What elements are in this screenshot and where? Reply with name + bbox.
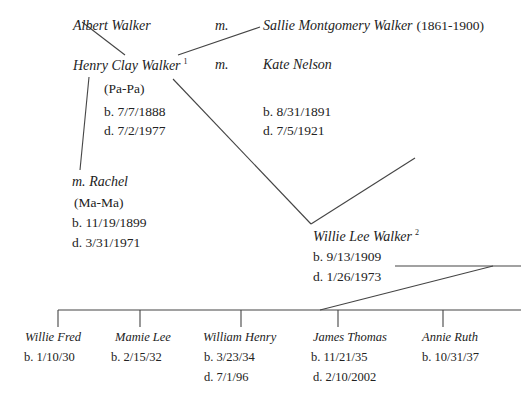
henry-died: d. 7/2/1977 bbox=[104, 124, 166, 138]
child-2-born: b. 2/15/32 bbox=[111, 351, 162, 364]
child-4-name: James Thomas bbox=[313, 331, 387, 344]
henry-nickname: (Pa-Pa) bbox=[104, 82, 145, 96]
child-4-died: d. 2/10/2002 bbox=[313, 371, 376, 384]
child-3-name: William Henry bbox=[203, 331, 276, 344]
child-3-born: b. 3/23/34 bbox=[204, 351, 255, 364]
sallie-name: Sallie Montgomery Walker bbox=[263, 18, 413, 33]
rachel-marriage-label: m. bbox=[72, 174, 86, 189]
child-1-name: Willie Fred bbox=[25, 331, 81, 344]
henry-name: Henry Clay Walker bbox=[73, 58, 181, 73]
connector-kate-willie-lee bbox=[311, 158, 415, 224]
albert-walker-name: Albert Walker bbox=[73, 19, 151, 33]
willie-lee-walker-entry: Willie Lee Walker2 bbox=[313, 229, 419, 244]
marriage-label-2: m. bbox=[215, 58, 229, 72]
footnote-1[interactable]: 1 bbox=[184, 57, 188, 66]
willie-lee-born: b. 9/13/1909 bbox=[313, 250, 381, 264]
rachel-nickname: (Ma-Ma) bbox=[74, 196, 123, 210]
kate-nelson-name: Kate Nelson bbox=[263, 58, 332, 72]
rachel-entry: m. Rachel bbox=[72, 175, 128, 189]
rachel-died: d. 3/31/1971 bbox=[72, 236, 140, 250]
child-3-died: d. 7/1/96 bbox=[204, 371, 248, 384]
rachel-born: b. 11/19/1899 bbox=[72, 216, 147, 230]
connector-henry-rachel bbox=[80, 77, 89, 170]
kate-died: d. 7/5/1921 bbox=[263, 124, 325, 138]
henry-born: b. 7/7/1888 bbox=[104, 105, 166, 119]
child-1-born: b. 1/10/30 bbox=[24, 351, 75, 364]
sallie-entry: Sallie Montgomery Walker (1861-1900) bbox=[263, 19, 484, 33]
willie-lee-died: d. 1/26/1973 bbox=[313, 270, 381, 284]
rachel-name: Rachel bbox=[89, 174, 128, 189]
willie-lee-name: Willie Lee Walker bbox=[313, 229, 412, 244]
marriage-label-1: m. bbox=[215, 19, 229, 33]
henry-clay-walker-entry: Henry Clay Walker1 bbox=[73, 58, 188, 73]
child-5-born: b. 10/31/37 bbox=[422, 351, 479, 364]
connector-henry-willie-lee bbox=[173, 79, 311, 224]
child-2-name: Mamie Lee bbox=[115, 331, 171, 344]
footnote-2[interactable]: 2 bbox=[415, 228, 419, 237]
child-5-name: Annie Ruth bbox=[422, 331, 478, 344]
kate-born: b. 8/31/1891 bbox=[263, 105, 331, 119]
sallie-years: (1861-1900) bbox=[417, 18, 485, 33]
child-4-born: b. 11/21/35 bbox=[311, 351, 367, 364]
